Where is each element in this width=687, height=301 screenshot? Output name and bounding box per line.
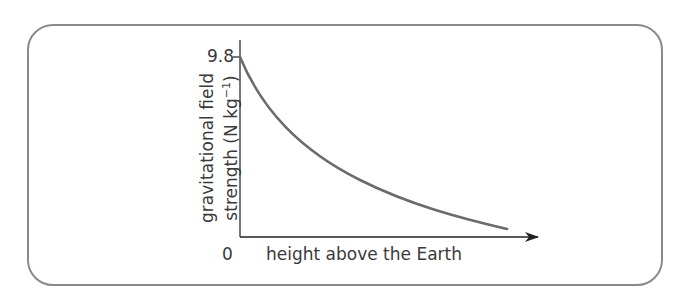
y-axis-label-line2: strength (N kg−1): [217, 73, 241, 223]
y-axis-label-close: ): [221, 75, 241, 82]
y-axis-label-line1: gravitational field: [197, 73, 217, 223]
y-axis-label-exponent: −1: [220, 82, 233, 98]
x-axis-label: height above the Earth: [266, 244, 462, 264]
y-tick-label: 9.8: [207, 46, 234, 66]
x-origin-label: 0: [222, 244, 233, 264]
y-axis-label: gravitational field strength (N kg−1): [197, 73, 241, 223]
gravity-curve: [240, 57, 507, 229]
y-axis-label-units: strength (N kg: [221, 98, 241, 220]
